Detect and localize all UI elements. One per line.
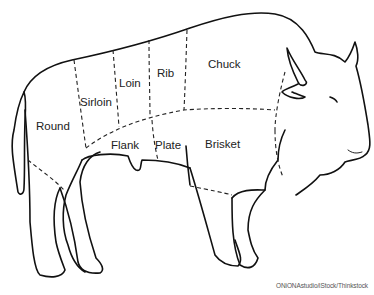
body-back-outline: [24, 13, 370, 195]
eye-icon: [330, 97, 337, 102]
belly-fold-outline: [63, 160, 85, 272]
tail-outline: [12, 92, 26, 194]
cut-label-rib: Rib: [157, 67, 174, 79]
hind-leg-rear-outline: [25, 110, 65, 277]
cut-label-loin: Loin: [119, 77, 141, 89]
cut-line-loin-rib: [149, 40, 150, 117]
horn-outline: [287, 48, 306, 85]
belly-outline: [82, 154, 190, 170]
front-leg-front-outline: [232, 190, 265, 268]
cut-label-brisket: Brisket: [205, 138, 240, 150]
cut-label-sirloin: Sirloin: [80, 96, 112, 108]
cut-line-round-lower: [28, 160, 64, 190]
image-credit: ONiONAstudio/iStock/Thinkstock: [276, 282, 368, 289]
bison-outline-drawing: [0, 0, 374, 295]
brisket-front-outline: [186, 146, 190, 185]
ear-outline: [282, 84, 305, 98]
cut-label-flank: Flank: [111, 139, 139, 151]
hind-leg-inner-outline: [60, 152, 103, 273]
cut-label-chuck: Chuck: [208, 58, 241, 70]
cut-label-round: Round: [36, 120, 70, 132]
mouth-outline: [348, 150, 362, 153]
cut-label-plate: Plate: [155, 139, 181, 151]
cut-line-chuck-neck: [275, 72, 285, 130]
cut-line-rib-chuck: [184, 30, 187, 110]
